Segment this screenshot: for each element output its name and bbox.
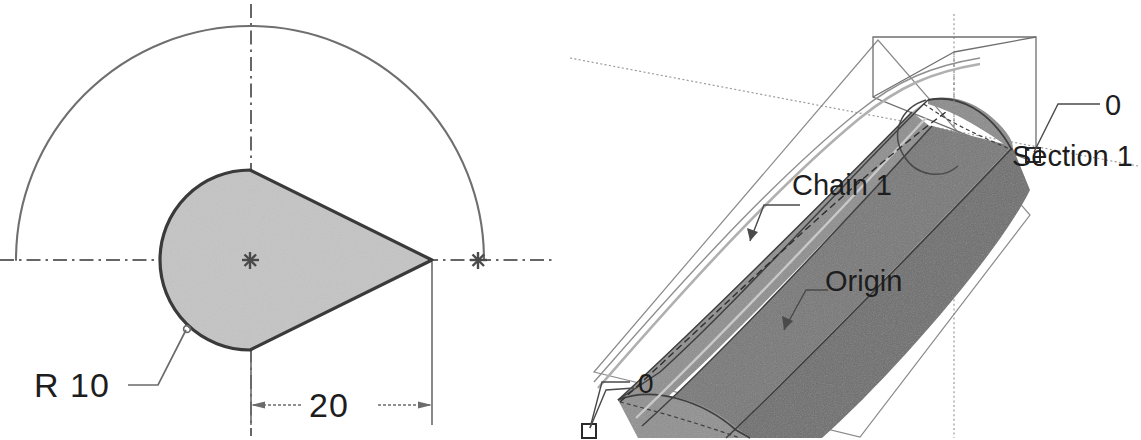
origin-label: Origin [825, 265, 902, 297]
length-dimension-label: 20 [309, 386, 349, 424]
chain-index-label: 0 [638, 368, 654, 399]
section-profile-view: R 10 20 [0, 0, 570, 440]
section-1-label: Section 1 [1012, 140, 1133, 172]
teardrop-profile [160, 170, 432, 350]
section-index-label: 0 [1105, 89, 1121, 121]
chain-1-label: Chain 1 [792, 169, 892, 201]
isometric-solid-view: 0 Section 1 Chain 1 Origin 0 [560, 0, 1141, 440]
radius-leader [128, 326, 190, 385]
drawing-sheet: R 10 20 [0, 0, 1141, 440]
radius-dimension-label: R 10 [34, 366, 110, 404]
handle-start[interactable] [582, 424, 596, 438]
